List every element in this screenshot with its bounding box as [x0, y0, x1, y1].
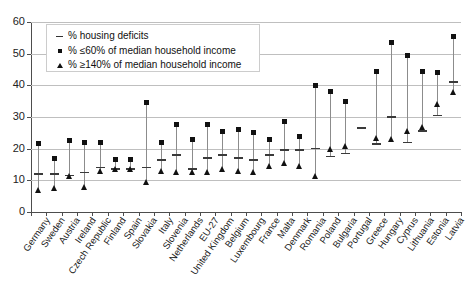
marker-above-140-percent — [404, 128, 410, 134]
connector-stem — [269, 139, 270, 166]
x-tick-mark — [461, 212, 462, 216]
marker-housing-deficits — [387, 116, 396, 118]
legend-item-above-140-percent: % ≥140% of median household income — [54, 58, 253, 73]
marker-housing-deficits — [449, 81, 458, 83]
x-tick-mark — [169, 212, 170, 216]
connector-stem — [376, 71, 377, 144]
dash-icon — [54, 36, 65, 37]
marker-above-140-percent — [158, 168, 164, 174]
marker-below-60-percent — [374, 69, 379, 74]
x-tick-mark — [277, 212, 278, 216]
connector-stem — [253, 133, 254, 173]
marker-below-60-percent — [405, 53, 410, 58]
marker-above-140-percent — [35, 187, 41, 193]
connector-stem — [391, 43, 392, 140]
x-tick-mark — [384, 212, 385, 216]
marker-below-60-percent — [451, 34, 456, 39]
x-tick-mark — [261, 212, 262, 216]
x-tick-mark — [200, 212, 201, 216]
marker-housing-deficits — [403, 142, 412, 144]
marker-below-60-percent — [98, 140, 103, 145]
marker-housing-deficits — [280, 149, 289, 151]
marker-housing-deficits — [418, 130, 427, 132]
marker-below-60-percent — [205, 122, 210, 127]
x-tick-mark — [92, 212, 93, 216]
triangle-icon — [54, 63, 65, 68]
marker-housing-deficits — [341, 153, 350, 155]
marker-above-140-percent — [327, 146, 333, 152]
marker-above-140-percent — [434, 101, 440, 107]
connector-stem — [284, 122, 285, 163]
x-tick-mark — [354, 212, 355, 216]
marker-housing-deficits — [234, 157, 243, 159]
marker-below-60-percent — [282, 119, 287, 124]
y-tick-label: 30 — [2, 111, 25, 122]
connector-stem — [422, 71, 423, 131]
marker-below-60-percent — [144, 100, 149, 105]
legend-label: % ≤60% of median household income — [68, 46, 236, 56]
marker-housing-deficits — [357, 127, 366, 129]
connector-stem — [38, 144, 39, 190]
x-tick-mark — [215, 212, 216, 216]
marker-below-60-percent — [113, 157, 118, 162]
legend-item-below-60-percent: % ≤60% of median household income — [54, 44, 253, 59]
marker-housing-deficits — [218, 154, 227, 156]
marker-below-60-percent — [220, 129, 225, 134]
marker-above-140-percent — [204, 169, 210, 175]
marker-below-60-percent — [420, 69, 425, 74]
marker-above-140-percent — [266, 163, 272, 169]
marker-below-60-percent — [297, 134, 302, 139]
marker-above-140-percent — [250, 169, 256, 175]
x-tick-mark — [123, 212, 124, 216]
marker-housing-deficits — [265, 154, 274, 156]
x-tick-mark — [185, 212, 186, 216]
marker-above-140-percent — [281, 160, 287, 166]
marker-above-140-percent — [189, 169, 195, 175]
connector-stem — [161, 142, 162, 171]
x-tick-mark — [31, 212, 32, 216]
marker-above-140-percent — [388, 136, 394, 142]
marker-below-60-percent — [267, 137, 272, 142]
marker-above-140-percent — [143, 179, 149, 185]
x-tick-mark — [307, 212, 308, 216]
marker-below-60-percent — [174, 122, 179, 127]
connector-stem — [315, 85, 316, 175]
marker-above-140-percent — [296, 163, 302, 169]
connector-stem — [192, 139, 193, 172]
marker-above-140-percent — [127, 166, 133, 172]
connector-stem — [69, 141, 70, 176]
y-tick-label: 40 — [2, 79, 25, 90]
x-tick-mark — [415, 212, 416, 216]
y-tick-label: 0 — [2, 206, 25, 217]
y-tick-label: 60 — [2, 16, 25, 27]
marker-below-60-percent — [52, 156, 57, 161]
marker-above-140-percent — [173, 169, 179, 175]
y-tick-label: 50 — [2, 48, 25, 59]
chart-legend: % housing deficits % ≤60% of median hous… — [46, 24, 260, 72]
x-tick-mark — [154, 212, 155, 216]
marker-below-60-percent — [190, 137, 195, 142]
x-tick-mark — [246, 212, 247, 216]
connector-stem — [222, 131, 223, 169]
connector-stem — [437, 73, 438, 116]
marker-housing-deficits — [50, 173, 59, 175]
marker-below-60-percent — [251, 130, 256, 135]
marker-below-60-percent — [236, 127, 241, 132]
marker-housing-deficits — [249, 159, 258, 161]
x-tick-mark — [77, 212, 78, 216]
marker-below-60-percent — [82, 140, 87, 145]
connector-stem — [84, 142, 85, 186]
marker-above-140-percent — [419, 124, 425, 130]
x-tick-mark — [430, 212, 431, 216]
x-tick-mark — [338, 212, 339, 216]
square-icon — [54, 49, 65, 53]
marker-below-60-percent — [343, 99, 348, 104]
marker-below-60-percent — [328, 89, 333, 94]
marker-housing-deficits — [203, 157, 212, 159]
legend-label: % housing deficits — [68, 31, 149, 41]
legend-item-housing-deficits: % housing deficits — [54, 29, 253, 44]
x-tick-mark — [231, 212, 232, 216]
x-tick-mark — [108, 212, 109, 216]
marker-above-140-percent — [66, 173, 72, 179]
